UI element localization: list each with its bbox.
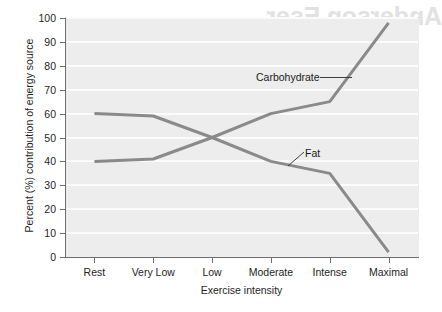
annotation-fat: Fat (305, 148, 320, 159)
y-axis-tick (60, 18, 65, 19)
y-axis-tick (60, 66, 65, 67)
gridline (66, 184, 418, 186)
gridline (66, 160, 418, 162)
gridline (66, 232, 418, 234)
x-axis-tick (153, 257, 154, 263)
y-axis-title: Percent (%) contribution of energy sourc… (24, 11, 35, 261)
gridline (66, 137, 418, 139)
y-axis-tick (60, 161, 65, 162)
y-axis-tick-label: 100 (16, 13, 56, 24)
x-axis-tick (212, 257, 213, 263)
x-axis-tick (94, 257, 95, 263)
y-axis-tick (60, 257, 65, 258)
x-axis-tick (330, 257, 331, 263)
x-axis-tick (271, 257, 272, 263)
gridline (66, 113, 418, 115)
y-axis-tick (60, 114, 65, 115)
gridline (66, 89, 418, 91)
y-axis-tick (60, 233, 65, 234)
gridline (66, 65, 418, 67)
annotation-carbohydrate: Carbohydrate (256, 72, 320, 83)
y-axis-tick (60, 138, 65, 139)
y-axis-tick (60, 185, 65, 186)
y-axis-tick (60, 209, 65, 210)
x-axis-tick (389, 257, 390, 263)
x-axis-title: Exercise intensity (65, 285, 418, 296)
gridline (66, 41, 418, 43)
chart-figure: Anderson Eser 0102030405060708090100 Res… (0, 0, 442, 312)
y-axis-tick (60, 42, 65, 43)
gridline (66, 17, 418, 19)
gridline (66, 208, 418, 210)
x-axis-tick-label: Maximal (344, 266, 434, 278)
y-axis-tick-label: 0 (16, 252, 56, 263)
y-axis-tick (60, 90, 65, 91)
